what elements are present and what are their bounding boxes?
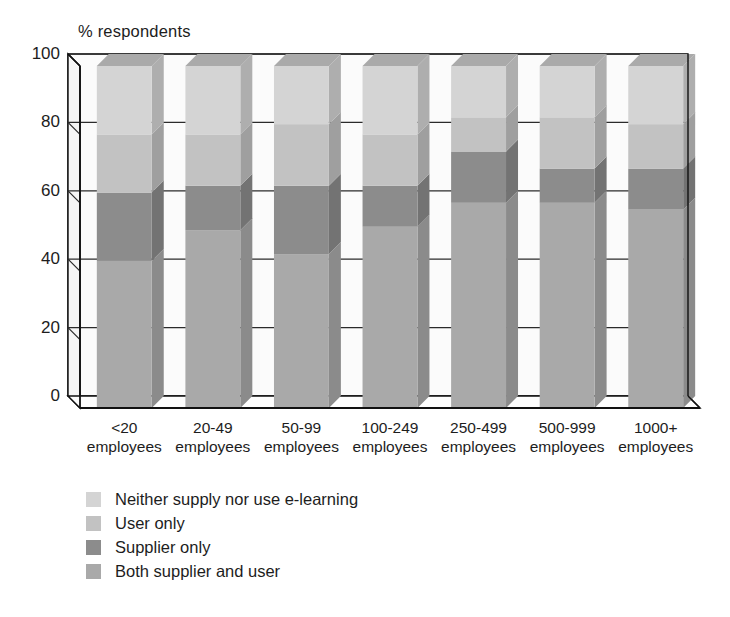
bar-segment — [451, 117, 506, 151]
bar-segment-side — [152, 249, 164, 408]
bar-segment — [97, 66, 152, 134]
bar-segment — [628, 169, 683, 210]
bar-column — [363, 54, 430, 408]
bar-segment — [274, 66, 329, 124]
bar-segment — [363, 66, 418, 134]
bar-segment-side — [417, 54, 429, 134]
bar-segment-side — [683, 54, 695, 124]
legend-swatch-icon — [86, 540, 101, 555]
legend-item[interactable]: Both supplier and user — [86, 559, 358, 583]
bar-segment — [185, 186, 240, 230]
bar-segment — [185, 230, 240, 408]
legend-label: Neither supply nor use e-learning — [115, 490, 358, 509]
bar-segment — [97, 261, 152, 408]
legend-swatch-icon — [86, 492, 101, 507]
legend-label: Supplier only — [115, 538, 210, 557]
bar-segment-side — [417, 215, 429, 408]
bar-segment — [97, 134, 152, 192]
bar-segment — [274, 186, 329, 254]
bar-segment — [540, 169, 595, 203]
bar-segment — [628, 124, 683, 168]
bar-column — [451, 54, 518, 408]
y-tick-label: 100 — [16, 44, 60, 64]
bar-segment — [363, 186, 418, 227]
bar-segment — [363, 227, 418, 408]
bar-segment — [274, 254, 329, 408]
x-tick-label: 1000+employees — [596, 418, 716, 457]
bar-segment — [628, 210, 683, 408]
bar-segment-side — [240, 218, 252, 408]
y-tick-label: 0 — [16, 386, 60, 406]
bar-column — [97, 54, 164, 408]
x-tick-label-range: 1000+ — [596, 418, 716, 437]
bar-segment — [97, 193, 152, 261]
bar-column — [540, 54, 607, 408]
y-tick-label: 20 — [16, 318, 60, 338]
plot-left-wall — [68, 54, 80, 408]
x-tick-label-unit: employees — [596, 437, 716, 456]
legend-item[interactable]: Neither supply nor use e-learning — [86, 487, 358, 511]
bar-segment-side — [329, 174, 341, 254]
y-tick-label: 60 — [16, 181, 60, 201]
bar-column — [185, 54, 252, 408]
legend-label: User only — [115, 514, 185, 533]
bar-segment-side — [329, 112, 341, 186]
legend-item[interactable]: Supplier only — [86, 535, 358, 559]
bar-segment — [363, 134, 418, 185]
legend-swatch-icon — [86, 564, 101, 579]
bar-column — [274, 54, 341, 408]
bar-segment — [540, 66, 595, 117]
legend-swatch-icon — [86, 516, 101, 531]
bar-column — [628, 54, 695, 408]
bar-segment-side — [240, 54, 252, 134]
bar-segment — [274, 124, 329, 186]
bar-segment-side — [329, 242, 341, 408]
bar-segment — [451, 152, 506, 203]
legend-item[interactable]: User only — [86, 511, 358, 535]
bar-segment-side — [329, 54, 341, 124]
bar-segment — [540, 117, 595, 168]
chart-root: % respondents 100806040200 <20employees2… — [0, 0, 730, 617]
bar-segment-side — [595, 191, 607, 408]
legend-label: Both supplier and user — [115, 562, 280, 581]
y-tick-label: 80 — [16, 112, 60, 132]
bar-segment-side — [152, 122, 164, 192]
bar-segment-side — [506, 191, 518, 408]
bar-segment — [628, 66, 683, 124]
bar-segment — [451, 66, 506, 117]
bar-segment — [451, 203, 506, 408]
y-tick-label: 40 — [16, 249, 60, 269]
chart-legend: Neither supply nor use e-learningUser on… — [86, 487, 358, 583]
bar-segment — [185, 66, 240, 134]
bar-segment-side — [152, 54, 164, 134]
bar-segment — [185, 134, 240, 185]
bar-segment-side — [683, 198, 695, 408]
bar-segment — [540, 203, 595, 408]
y-axis-tick-labels: 100806040200 — [8, 0, 60, 617]
bar-segment-side — [152, 181, 164, 261]
